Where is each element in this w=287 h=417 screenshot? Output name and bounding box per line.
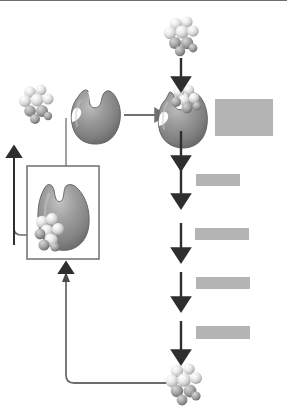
redaction-step-2 (195, 228, 249, 240)
free-enzyme-shape (71, 90, 120, 144)
diagram-canvas (0, 0, 287, 417)
pathway-vector-layer (0, 0, 287, 417)
redaction-active-site (215, 99, 273, 136)
substrate-molecule-top (164, 16, 199, 56)
connector-inset-to-release-arrow (14, 150, 27, 235)
connector-product-to-feedback (62, 268, 167, 383)
end-product-molecule (166, 363, 202, 405)
redaction-step-4 (196, 326, 250, 339)
redaction-step-1 (196, 174, 240, 186)
redaction-step-3 (196, 277, 250, 289)
substrate-molecule-left (19, 85, 54, 124)
